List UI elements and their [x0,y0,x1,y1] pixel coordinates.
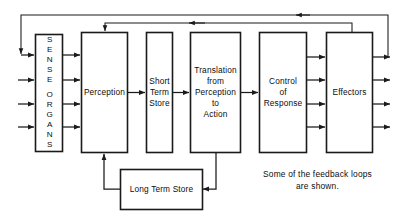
box-short-term-store [147,33,173,153]
box-effectors [327,33,373,153]
sense-organs-line-1: SENSE [45,35,53,86]
figure-caption: Some of the feedback loops are shown. [240,168,395,192]
sense-organs-line-2: ORGANS [45,90,53,151]
translation-to-long-term-store-link [203,153,216,189]
box-control-of-response [260,33,307,153]
box-long-term-store [121,170,203,210]
box-perception [82,33,128,153]
inner-feedback-loop [105,23,352,32]
figure-root: SENSE ORGANS Perception Short Term Store… [0,0,405,224]
label-sense-organs: SENSE ORGANS [35,34,63,152]
box-translation [191,33,241,153]
long-term-store-to-perception-link [104,154,120,189]
